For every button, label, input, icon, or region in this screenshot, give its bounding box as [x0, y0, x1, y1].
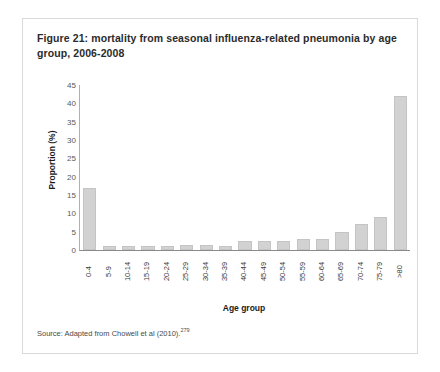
y-axis-tick: 25 [67, 154, 76, 163]
bar [238, 241, 251, 250]
y-axis-tick: 10 [67, 209, 76, 218]
bar-slot [371, 85, 390, 250]
x-tick-slot: 5-9 [98, 253, 117, 276]
bar [83, 188, 96, 250]
x-axis-tick: 5-9 [104, 266, 113, 277]
x-axis-tick: 0-4 [84, 266, 93, 277]
x-tick-slot: 50-54 [273, 253, 292, 276]
x-axis-tick: 10-14 [123, 262, 132, 281]
y-axis-tick: 30 [67, 136, 76, 145]
y-axis-tick: 35 [67, 117, 76, 126]
bar [180, 245, 193, 251]
bar-slot [332, 85, 351, 250]
x-tick-slot: 70-74 [351, 253, 370, 276]
bar [141, 246, 154, 250]
bar-slot [80, 85, 99, 250]
x-axis-tick: 35-39 [220, 262, 229, 281]
source-reference-number: 279 [180, 327, 189, 333]
source-note: Source: Adapted from Chowell et al (2010… [37, 327, 190, 338]
x-tick-slot: 0-4 [79, 253, 98, 276]
bar [277, 241, 290, 250]
x-axis-tick: 45-49 [259, 262, 268, 281]
x-tick-slot: 20-24 [157, 253, 176, 276]
bar-slot [99, 85, 118, 250]
x-tick-slot: 15-19 [137, 253, 156, 276]
figure-title: Figure 21: mortality from seasonal influ… [37, 31, 397, 61]
x-axis-tick: 15-19 [142, 262, 151, 281]
bar-slot [274, 85, 293, 250]
y-axis-tick: 0 [72, 246, 76, 255]
bar-slot [138, 85, 157, 250]
bar [335, 232, 348, 250]
bar [297, 239, 310, 250]
x-axis-tick: 40-44 [239, 262, 248, 281]
y-axis-tick: 45 [67, 81, 76, 90]
x-axis-tick: 75-79 [375, 262, 384, 281]
x-axis-tick: 60-64 [317, 262, 326, 281]
x-tick-slot: 30-34 [195, 253, 214, 276]
x-axis-tick: 50-54 [278, 262, 287, 281]
bar [122, 246, 135, 250]
bar-series [80, 85, 410, 250]
y-axis-tick: 5 [72, 227, 76, 236]
x-tick-slot: 65-69 [331, 253, 350, 276]
x-axis-title: Age group [79, 303, 409, 313]
bar [374, 217, 387, 250]
source-text: Source: Adapted from Chowell et al (2010… [37, 328, 180, 337]
bar [316, 239, 329, 250]
y-axis-tick: 20 [67, 172, 76, 181]
y-axis-title: Proportion (%) [47, 105, 57, 215]
bar [103, 246, 116, 250]
bar [161, 246, 174, 250]
x-axis-tick: 65-69 [336, 262, 345, 281]
plot-area: 051015202530354045 [79, 85, 410, 251]
bar-slot [158, 85, 177, 250]
bar-slot [177, 85, 196, 250]
x-tick-slot: 25-29 [176, 253, 195, 276]
bar [355, 224, 368, 250]
x-tick-slot: 40-44 [234, 253, 253, 276]
x-tick-slot: >80 [390, 253, 409, 276]
bar [394, 96, 407, 250]
bar-slot [196, 85, 215, 250]
x-axis-tick: 30-34 [201, 262, 210, 281]
bar [219, 246, 232, 250]
figure-container: Figure 21: mortality from seasonal influ… [22, 18, 418, 354]
x-tick-slot: 60-64 [312, 253, 331, 276]
bar-slot [293, 85, 312, 250]
bar-slot [119, 85, 138, 250]
x-tick-slot: 35-39 [215, 253, 234, 276]
x-axis-tick: 70-74 [356, 262, 365, 281]
x-tick-slot: 45-49 [254, 253, 273, 276]
bar-slot [313, 85, 332, 250]
bar [258, 241, 271, 250]
x-axis-ticks: 0-45-910-1415-1920-2425-2930-3435-3940-4… [79, 253, 409, 276]
bar-slot [216, 85, 235, 250]
y-axis-tick: 15 [67, 191, 76, 200]
x-axis-tick: >80 [395, 265, 404, 278]
bar-slot [255, 85, 274, 250]
bar-slot [352, 85, 371, 250]
bar-slot [235, 85, 254, 250]
x-tick-slot: 75-79 [370, 253, 389, 276]
x-axis-tick: 55-59 [298, 262, 307, 281]
y-axis-tick: 40 [67, 99, 76, 108]
x-axis-tick: 20-24 [162, 262, 171, 281]
bar-slot [391, 85, 410, 250]
x-axis-tick: 25-29 [181, 262, 190, 281]
bar [200, 245, 213, 251]
x-tick-slot: 10-14 [118, 253, 137, 276]
x-tick-slot: 55-59 [292, 253, 311, 276]
chart-plot: Proportion (%) 051015202530354045 0-45-9… [23, 77, 419, 307]
